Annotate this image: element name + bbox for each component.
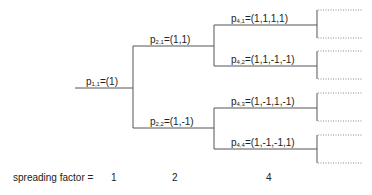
node-p21: p2,1=(1,1) [150, 34, 190, 48]
node-p41: p4,1=(1,1,1,1) [231, 13, 288, 27]
node-p11: p1,1=(1) [86, 76, 118, 90]
spreading-factor-1: 1 [111, 172, 117, 184]
spreading-factor-4: 4 [266, 172, 272, 184]
node-p42: p4,2=(1,1,-1,-1) [231, 54, 295, 68]
code-tree-lines [0, 0, 372, 195]
node-p43: p4,3=(1,-1,1,-1) [231, 96, 295, 110]
spreading-factor-label: spreading factor = [13, 172, 93, 184]
node-p22: p2,2=(1,-1) [150, 116, 194, 130]
node-p44: p4,4=(1,-1,-1,1) [231, 137, 295, 151]
spreading-factor-2: 2 [172, 172, 178, 184]
